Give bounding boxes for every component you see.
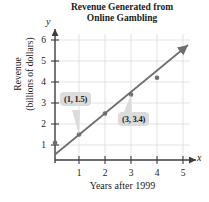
x-tick-label-4: 4 xyxy=(155,168,160,178)
callout-tail-a xyxy=(72,110,80,135)
x-axis: 1 2 3 4 5 xyxy=(55,156,196,178)
chart-figure: Revenue Generated from Online Gambling R… xyxy=(0,0,209,202)
data-point xyxy=(103,111,108,116)
x-tick-label-1: 1 xyxy=(77,168,82,178)
data-label-callout: (1, 1.5) xyxy=(60,92,91,106)
y-tick-label-5: 5 xyxy=(41,56,46,66)
x-tick-label-2: 2 xyxy=(103,168,108,178)
data-label-callout: (3, 3.4) xyxy=(118,112,149,126)
x-tick-label-5: 5 xyxy=(181,168,186,178)
data-points xyxy=(53,76,160,146)
y-tick-label-6: 6 xyxy=(41,35,46,45)
y-tick-label-4: 4 xyxy=(41,77,46,87)
data-point xyxy=(53,141,58,146)
x-tick-label-3: 3 xyxy=(129,168,134,178)
y-tick-label-1: 1 xyxy=(41,140,46,150)
y-tick-label-3: 3 xyxy=(41,98,46,108)
chart-plot-area: 6 5 4 3 2 1 1 2 3 4 5 xyxy=(0,0,209,202)
data-point xyxy=(155,76,160,81)
y-tick-label-2: 2 xyxy=(41,119,46,129)
